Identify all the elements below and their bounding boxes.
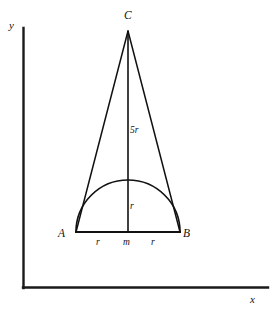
geometry-figure-canvas: y x C A B m 5r r r r <box>0 0 272 313</box>
segment-label-half-base-right: r <box>151 238 155 248</box>
axes-group <box>23 28 268 288</box>
segment-label-half-base-left: r <box>96 238 100 248</box>
geometry-figure-svg <box>0 0 272 313</box>
triangle-side-ca <box>76 31 128 232</box>
segment-label-radius: r <box>130 202 134 212</box>
vertex-label-m: m <box>123 238 130 248</box>
x-axis-label: x <box>250 294 255 305</box>
vertex-label-b: B <box>183 228 190 240</box>
vertex-label-a: A <box>58 228 65 240</box>
vertex-label-c: C <box>124 10 132 22</box>
y-axis-label: y <box>9 20 14 31</box>
segment-label-height: 5r <box>130 126 138 136</box>
